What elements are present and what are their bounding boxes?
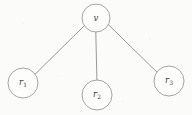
- node-label-r1: r1: [19, 78, 27, 88]
- node-label-r3-subscript: 3: [169, 79, 173, 86]
- edge-v-r3: [108, 25, 158, 73]
- node-label-r3: r3: [165, 76, 173, 86]
- node-label-v-text: v: [94, 13, 99, 23]
- edge-group: [35, 25, 158, 80]
- node-label-r2-subscript: 2: [97, 93, 101, 100]
- graph-figure: v r1 r2 r3: [0, 0, 192, 115]
- edge-v-r1: [35, 26, 85, 75]
- node-label-r1-subscript: 1: [23, 81, 27, 88]
- edge-v-r2: [96, 32, 97, 80]
- node-label-r2: r2: [93, 90, 101, 100]
- node-label-v: v: [94, 14, 99, 23]
